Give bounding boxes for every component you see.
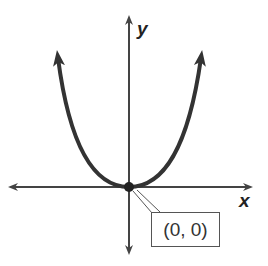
- parabola-graph: [0, 0, 268, 266]
- vertex-callout: (0, 0): [151, 212, 220, 247]
- vertex-label: (0, 0): [163, 219, 207, 241]
- y-axis-label: y: [137, 18, 148, 40]
- vertex-point: [124, 182, 134, 192]
- callout-pointer: [133, 191, 172, 213]
- x-axis-label: x: [239, 190, 250, 212]
